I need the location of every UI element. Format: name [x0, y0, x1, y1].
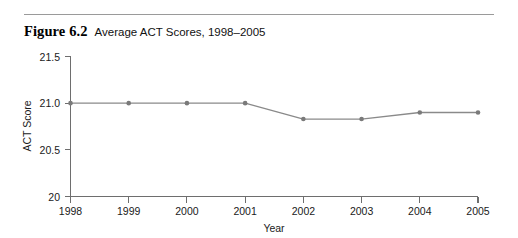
y-tick-label-21-5: 21.5 — [40, 51, 61, 63]
data-point-2001 — [243, 101, 248, 106]
data-point-1999 — [126, 101, 131, 106]
x-tick-label-1999: 1999 — [117, 205, 141, 217]
data-point-2002 — [301, 117, 306, 122]
data-point-2003 — [359, 117, 364, 122]
data-point-2004 — [417, 110, 422, 115]
data-point-2000 — [185, 101, 190, 106]
data-point-2005 — [476, 110, 481, 115]
chart-plot-area: 21.5 21.0 20.5 20 ACT Score 1998 1999 20… — [0, 40, 518, 238]
y-axis-title: ACT Score — [21, 100, 33, 151]
y-tick-label-20-5: 20.5 — [40, 144, 61, 156]
x-tick-label-2002: 2002 — [292, 205, 316, 217]
x-tick-label-2000: 2000 — [175, 205, 199, 217]
x-tick-label-2004: 2004 — [408, 205, 432, 217]
figure-top-rule — [24, 14, 494, 15]
figure-number-label: Figure 6.2 — [24, 23, 88, 39]
data-line-act-score — [71, 103, 479, 119]
x-axis-ticks — [71, 197, 479, 203]
figure-container: Figure 6.2Average ACT Scores, 1998–2005 … — [0, 0, 518, 238]
figure-caption: Figure 6.2Average ACT Scores, 1998–2005 — [24, 22, 494, 40]
x-axis-title: Year — [263, 222, 285, 234]
x-tick-label-2005: 2005 — [466, 205, 490, 217]
y-tick-label-21-0: 21.0 — [40, 97, 61, 109]
x-tick-label-2001: 2001 — [233, 205, 257, 217]
x-tick-label-1998: 1998 — [59, 205, 83, 217]
figure-caption-text: Average ACT Scores, 1998–2005 — [95, 26, 266, 38]
data-point-1998 — [68, 101, 73, 106]
y-axis-ticks — [65, 57, 71, 197]
y-tick-label-20: 20 — [48, 191, 60, 203]
x-tick-label-2003: 2003 — [350, 205, 374, 217]
act-scores-line-chart: 21.5 21.0 20.5 20 ACT Score 1998 1999 20… — [0, 40, 518, 238]
